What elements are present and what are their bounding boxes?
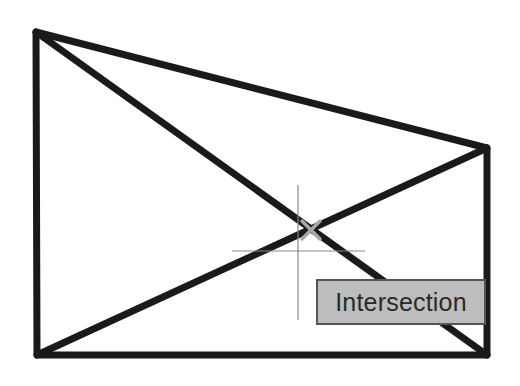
snap-tooltip: Intersection [316, 279, 486, 325]
drawing-canvas[interactable] [0, 0, 520, 386]
